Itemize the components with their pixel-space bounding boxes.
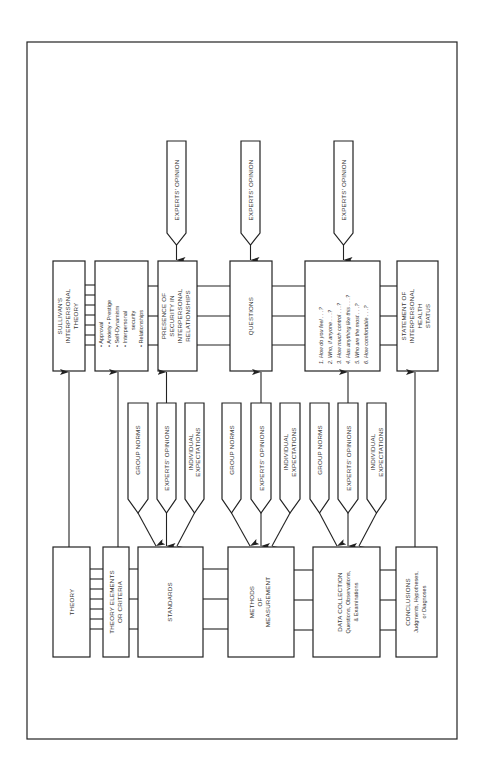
- svg-text:INDIVIDUAL: INDIVIDUAL: [282, 433, 289, 470]
- svg-text:• Relationships: • Relationships: [138, 310, 144, 347]
- question-list-box: 1. How do you feel . . .? 2. Who, if any…: [305, 261, 380, 371]
- svg-text:SULLIVAN'S: SULLIVAN'S: [56, 298, 63, 335]
- theory-to-conclusion-diagram: EXPERTS' OPINION EXPERTS' OPINION EXPERT…: [0, 0, 479, 777]
- svg-text:EXPECTATIONS: EXPECTATIONS: [377, 427, 384, 476]
- svg-text:PRESENCE OF: PRESENCE OF: [160, 293, 167, 340]
- svg-text:3. How much control . . .?: 3. How much control . . .?: [336, 303, 342, 364]
- svg-text:INTERPERSONAL: INTERPERSONAL: [408, 288, 415, 343]
- svg-text:EXPERTS' OPINIONS: EXPERTS' OPINIONS: [345, 425, 352, 490]
- svg-text:6. How comfortable . . .?: 6. How comfortable . . .?: [363, 306, 369, 364]
- svg-text:THEORY: THEORY: [72, 303, 79, 330]
- svg-text:MEASUREMENT: MEASUREMENT: [264, 577, 271, 627]
- svg-text:• Approval: • Approval: [98, 322, 104, 347]
- experts-opinion-label: EXPERTS' OPINION: [340, 160, 347, 221]
- svg-text:Questions, Observations,: Questions, Observations,: [345, 570, 351, 633]
- svg-text:STANDARDS: STANDARDS: [166, 582, 173, 622]
- svg-text:Judgments, Hypotheses,: Judgments, Hypotheses,: [413, 571, 419, 633]
- svg-text:• Interpersonal: • Interpersonal: [122, 311, 128, 347]
- svg-text:STATEMENT OF: STATEMENT OF: [400, 291, 407, 340]
- svg-text:security: security: [130, 311, 136, 330]
- svg-text:& Examinations: & Examinations: [353, 582, 359, 621]
- sullivans-theory-box: SULLIVAN'S INTERPERSONAL THEORY: [53, 261, 85, 371]
- svg-text:EXPECTATIONS: EXPECTATIONS: [194, 427, 201, 476]
- svg-text:• Anxiety • Prestige: • Anxiety • Prestige: [106, 300, 112, 347]
- svg-text:STATUS: STATUS: [424, 304, 431, 329]
- experts-opinion-label: EXPERTS' OPINION: [173, 160, 180, 221]
- svg-text:INDIVIDUAL: INDIVIDUAL: [187, 433, 194, 470]
- svg-text:INDIVIDUAL: INDIVIDUAL: [369, 433, 376, 470]
- svg-text:RELATIONSHIPS: RELATIONSHIPS: [184, 290, 191, 342]
- svg-text:1. How do you feel . . .?: 1. How do you feel . . .?: [318, 307, 324, 364]
- svg-text:4. Has anything like this . .: 4. Has anything like this . . .?: [345, 295, 351, 364]
- theory-concepts-bullets-box: • Approval • Anxiety • Prestige • Self-D…: [95, 261, 148, 371]
- data-collection-box: DATA COLLECTION Questions, Observations,…: [313, 547, 380, 657]
- svg-text:GROUP NORMS: GROUP NORMS: [134, 425, 141, 475]
- svg-text:EXPERTS' OPINIONS: EXPERTS' OPINIONS: [258, 425, 265, 490]
- statement-of-health-status-box: STATEMENT OF INTERPERSONAL HEALTH STATUS: [397, 261, 438, 371]
- svg-text:THEORY: THEORY: [68, 589, 75, 616]
- experts-opinion-label: EXPERTS' OPINION: [247, 160, 254, 221]
- svg-text:INTERPERSONAL: INTERPERSONAL: [64, 288, 71, 343]
- svg-text:CONCLUSIONS: CONCLUSIONS: [404, 578, 411, 626]
- methods-of-measurement-box: METHODS OF MEASUREMENT: [228, 547, 294, 657]
- svg-text:INTERPERSONAL: INTERPERSONAL: [176, 288, 183, 343]
- svg-text:SECURITY IN: SECURITY IN: [168, 295, 175, 336]
- svg-text:QUESTIONS: QUESTIONS: [247, 297, 254, 335]
- questions-box: QUESTIONS: [230, 261, 272, 371]
- svg-text:GROUP NORMS: GROUP NORMS: [228, 425, 235, 475]
- svg-text:METHODS: METHODS: [248, 586, 255, 618]
- svg-text:HEALTH: HEALTH: [416, 303, 423, 328]
- svg-text:2. Who, if anyone . . .?: 2. Who, if anyone . . .?: [327, 310, 333, 365]
- svg-text:OF: OF: [256, 597, 263, 606]
- conclusions-box: CONCLUSIONS Judgments, Hypotheses, or Di…: [396, 547, 437, 657]
- svg-text:• Self-Dynamism: • Self-Dynamism: [114, 305, 120, 347]
- svg-text:OR CRITERIA: OR CRITERIA: [116, 580, 123, 623]
- svg-text:or Diagnoses: or Diagnoses: [421, 585, 427, 618]
- standards-box: STANDARDS: [138, 547, 203, 657]
- theory-box: THEORY: [53, 547, 90, 657]
- svg-text:EXPERTS' OPINIONS: EXPERTS' OPINIONS: [163, 425, 170, 490]
- svg-text:5. Who are the most . . .?: 5. Who are the most . . .?: [354, 303, 360, 364]
- svg-text:EXPECTATIONS: EXPECTATIONS: [290, 427, 297, 476]
- svg-text:GROUP NORMS: GROUP NORMS: [316, 425, 323, 475]
- theory-elements-box: THEORY ELEMENTS OR CRITERIA: [103, 547, 129, 657]
- svg-text:DATA COLLECTION: DATA COLLECTION: [336, 572, 343, 632]
- svg-text:THEORY ELEMENTS: THEORY ELEMENTS: [108, 570, 115, 634]
- presence-of-security-box: PRESENCE OF SECURITY IN INTERPERSONAL RE…: [158, 261, 197, 371]
